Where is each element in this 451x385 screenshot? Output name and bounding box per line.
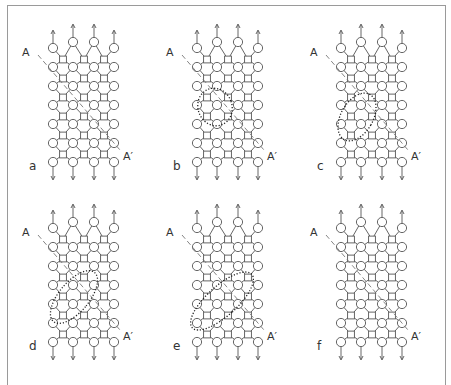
label-a-end: A′: [411, 150, 422, 163]
panel-f-letter: f: [317, 339, 322, 353]
label-a-end: A′: [411, 330, 422, 343]
label-a-start: A: [166, 46, 174, 59]
label-a-start: A: [310, 46, 318, 59]
label-a-start: A: [310, 226, 318, 239]
panel-d: AA′d: [22, 204, 134, 360]
panel-a-letter: a: [29, 159, 36, 173]
label-a-start: A: [22, 226, 30, 239]
panel-e: AA′e: [166, 204, 278, 360]
panel-a: AA′a: [22, 24, 134, 180]
panel-d-letter: d: [29, 339, 37, 353]
label-a-start: A: [22, 46, 30, 59]
panel-e-letter: e: [173, 339, 180, 353]
label-a-end: A′: [267, 150, 278, 163]
panel-c: AA′c: [310, 24, 422, 180]
label-a-end: A′: [123, 150, 134, 163]
panel-b: AA′b: [166, 24, 278, 180]
label-a-end: A′: [267, 330, 278, 343]
label-a-end: A′: [123, 330, 134, 343]
label-a-start: A: [166, 226, 174, 239]
panel-f: AA′f: [310, 204, 422, 360]
panel-b-letter: b: [173, 159, 181, 173]
panel-c-letter: c: [317, 159, 324, 173]
